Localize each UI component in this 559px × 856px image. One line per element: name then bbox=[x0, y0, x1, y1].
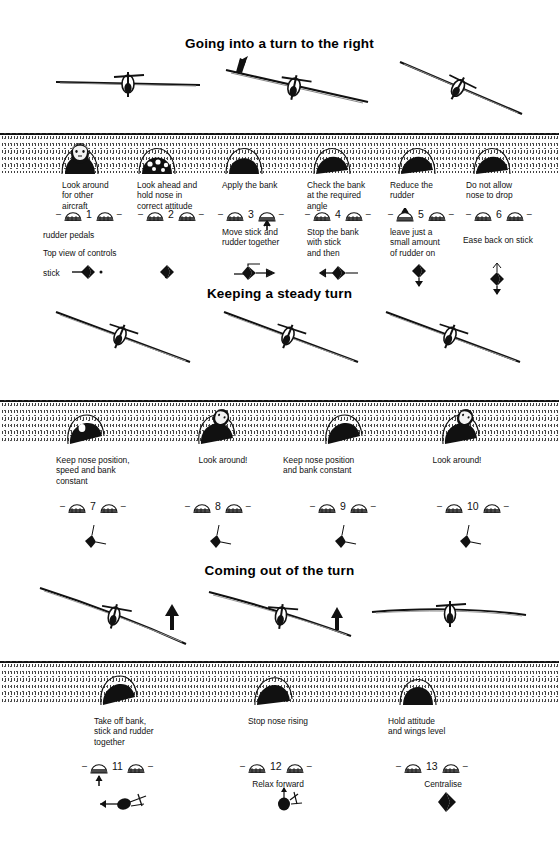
canopy-view-step-10 bbox=[437, 392, 483, 444]
control-group-step-9: – 9 – bbox=[310, 500, 376, 513]
stick-diagram-step-9 bbox=[330, 525, 362, 551]
rudder-pedal-right-2 bbox=[177, 208, 197, 221]
step-number-1: 1 bbox=[85, 209, 93, 220]
stick-diagram-step-13 bbox=[428, 790, 468, 816]
rudder-pedal-left-12 bbox=[247, 760, 267, 773]
rudder-pedal-right-10 bbox=[482, 500, 502, 513]
ctrl-dash-left: – bbox=[218, 210, 223, 219]
rudder-pedal-right-12 bbox=[285, 760, 305, 773]
diagram-page: Going into a turn to the right bbox=[0, 0, 559, 856]
control-group-step-2: – 2 – bbox=[138, 208, 204, 221]
step-subcaption-13: Centralise bbox=[388, 779, 498, 789]
section-heading-holding: Keeping a steady turn bbox=[0, 286, 559, 301]
rudder-pedal-left-10 bbox=[444, 500, 464, 513]
step-number-11: 11 bbox=[111, 761, 124, 772]
ctrl-dash-right: – bbox=[504, 502, 509, 511]
control-group-step-8: – 8 – bbox=[185, 500, 251, 513]
canopy-view-step-6 bbox=[470, 124, 514, 174]
step-caption-9: Keep nose position and bank constant bbox=[283, 455, 399, 476]
glider-level-entering bbox=[52, 66, 204, 102]
glider-banked-holding-1 bbox=[50, 306, 210, 368]
ctrl-dash-left: – bbox=[396, 762, 401, 771]
ctrl-dash-left: – bbox=[185, 502, 190, 511]
stick-diagram-step-2 bbox=[152, 263, 186, 281]
rudder-pedal-right-8 bbox=[224, 500, 244, 513]
step-number-3: 3 bbox=[247, 209, 255, 220]
ctrl-dash-right: – bbox=[199, 210, 204, 219]
rudder-pedal-left-11 bbox=[89, 760, 109, 773]
rudder-pedal-left-9 bbox=[317, 500, 337, 513]
canopy-view-step-8 bbox=[193, 392, 239, 444]
step-caption-8: Look around! bbox=[178, 455, 268, 465]
ctrl-dash-right: – bbox=[279, 210, 284, 219]
control-group-step-6: – 6 – bbox=[466, 208, 532, 221]
rudder-pedal-right-9 bbox=[349, 500, 369, 513]
rudder-pedal-left-6 bbox=[473, 208, 493, 221]
rudder-pedal-left-7 bbox=[67, 500, 87, 513]
ctrl-dash-right: – bbox=[121, 502, 126, 511]
stick-diagram-step-12 bbox=[272, 786, 318, 816]
stick-diagram-step-10 bbox=[455, 525, 487, 551]
rudder-pedal-right-4 bbox=[344, 208, 364, 221]
step-caption-4: Check the bank at the required angle bbox=[307, 180, 381, 211]
ctrl-dash-right: – bbox=[371, 502, 376, 511]
ctrl-dash-left: – bbox=[305, 210, 310, 219]
glider-rolling-entering bbox=[222, 56, 374, 112]
step-number-6: 6 bbox=[495, 209, 503, 220]
section-heading-entering: Going into a turn to the right bbox=[0, 36, 559, 51]
rudder-pedal-right-13 bbox=[441, 760, 461, 773]
canopy-view-step-9 bbox=[320, 392, 366, 444]
ctrl-dash-left: – bbox=[138, 210, 143, 219]
control-group-step-10: – 10 – bbox=[437, 500, 509, 513]
ctrl-dash-left: – bbox=[240, 762, 245, 771]
canopy-view-step-3 bbox=[222, 124, 266, 174]
ctrl-dash-right: – bbox=[117, 210, 122, 219]
canopy-view-step-1 bbox=[58, 124, 102, 174]
step-number-10: 10 bbox=[466, 501, 480, 512]
rudder-pedal-left-2 bbox=[145, 208, 165, 221]
ctrl-dash-left: – bbox=[60, 502, 65, 511]
rudder-pedal-right-11 bbox=[126, 760, 146, 773]
control-group-step-5: – 5 – bbox=[388, 208, 454, 221]
ctrl-dash-left: – bbox=[310, 502, 315, 511]
step-caption-2: Look ahead and hold nose in correct atti… bbox=[137, 180, 217, 211]
step-number-12: 12 bbox=[269, 761, 283, 772]
glider-banked-holding-2 bbox=[218, 306, 378, 368]
step-number-5: 5 bbox=[417, 209, 425, 220]
glider-rollout-3-level bbox=[368, 596, 538, 638]
rudder-pedal-right-7 bbox=[99, 500, 119, 513]
ctrl-dash-right: – bbox=[307, 762, 312, 771]
step-caption-5: Reduce the rudder bbox=[390, 180, 460, 201]
step-number-13: 13 bbox=[425, 761, 439, 772]
ctrl-dash-right: – bbox=[463, 762, 468, 771]
legend-stick: stick bbox=[43, 268, 60, 278]
ctrl-dash-left: – bbox=[388, 210, 393, 219]
glider-banked-entering bbox=[390, 56, 542, 118]
step-caption-1: Look around for other aircraft bbox=[62, 180, 134, 211]
ctrl-dash-left: – bbox=[466, 210, 471, 219]
step-subcaption-4: Stop the bank with stick and then bbox=[307, 227, 377, 258]
control-group-step-12: – 12 – bbox=[240, 760, 312, 773]
rudder-pedal-left-3 bbox=[225, 208, 245, 221]
step-caption-10: Look around! bbox=[412, 455, 502, 465]
stick-diagram-step-3 bbox=[232, 262, 278, 282]
step-caption-11: Take off bank, stick and rudder together bbox=[94, 716, 190, 747]
step-subcaption-6: Ease back on stick bbox=[463, 235, 555, 245]
control-group-step-3: – 3 – bbox=[218, 208, 284, 221]
canopy-view-step-5 bbox=[395, 124, 439, 174]
step-number-7: 7 bbox=[89, 501, 97, 512]
canopy-view-step-11 bbox=[95, 653, 141, 705]
step-number-8: 8 bbox=[214, 501, 222, 512]
ctrl-dash-left: – bbox=[437, 502, 442, 511]
canopy-view-step-2 bbox=[135, 124, 179, 174]
rudder-pedal-left-1 bbox=[63, 208, 83, 221]
stick-diagram-step-7 bbox=[80, 525, 112, 551]
rudder-pedal-left-4 bbox=[312, 208, 332, 221]
legend-top-view: Top view of controls bbox=[43, 248, 117, 258]
control-group-step-7: – 7 – bbox=[60, 500, 126, 513]
ctrl-dash-right: – bbox=[527, 210, 532, 219]
canopy-view-step-7 bbox=[62, 392, 108, 444]
step-caption-3: Apply the bank bbox=[222, 180, 302, 190]
stick-diagram-step-8 bbox=[205, 525, 237, 551]
glider-banked-holding-3 bbox=[380, 306, 540, 368]
